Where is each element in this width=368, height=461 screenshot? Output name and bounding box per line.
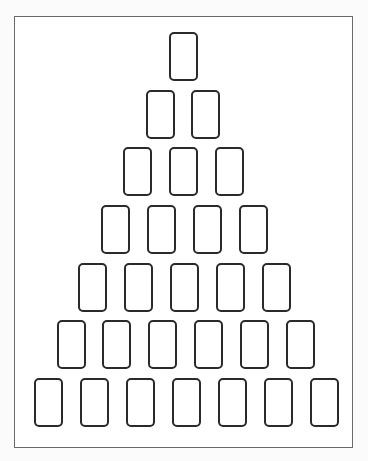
card-position-26 — [218, 378, 247, 427]
page — [0, 0, 368, 461]
card-position-6 — [215, 147, 244, 196]
card-position-11 — [78, 263, 107, 312]
card-position-10 — [239, 205, 268, 254]
card-position-24 — [126, 378, 155, 427]
card-position-22 — [34, 378, 63, 427]
card-position-1 — [169, 32, 198, 81]
card-position-23 — [80, 378, 109, 427]
card-position-15 — [262, 263, 291, 312]
card-position-16 — [57, 320, 86, 369]
card-position-18 — [148, 320, 177, 369]
card-position-27 — [264, 378, 293, 427]
card-position-12 — [124, 263, 153, 312]
card-position-21 — [286, 320, 315, 369]
card-position-19 — [194, 320, 223, 369]
card-position-28 — [310, 378, 339, 427]
card-position-25 — [172, 378, 201, 427]
card-position-17 — [102, 320, 131, 369]
card-position-4 — [123, 147, 152, 196]
card-position-5 — [169, 147, 198, 196]
card-position-3 — [191, 90, 220, 139]
card-position-20 — [240, 320, 269, 369]
card-position-7 — [101, 205, 130, 254]
card-position-8 — [147, 205, 176, 254]
card-position-14 — [216, 263, 245, 312]
card-position-9 — [193, 205, 222, 254]
card-position-13 — [170, 263, 199, 312]
card-position-2 — [146, 90, 175, 139]
